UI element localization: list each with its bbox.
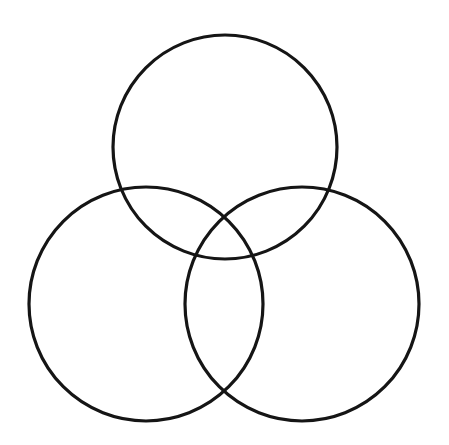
- figure-background: [0, 0, 449, 445]
- three-circle-venn-diagram: [0, 0, 449, 445]
- figure-canvas: [0, 0, 449, 445]
